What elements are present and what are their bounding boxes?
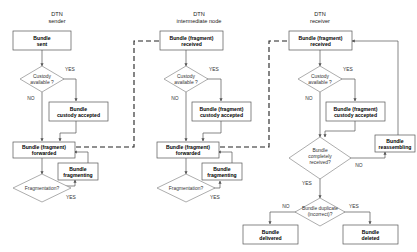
- node-recv-accepted-line2: custody accepted: [334, 112, 377, 118]
- node-inter-custody-accepted: Bundle (fragment) custody accepted: [192, 102, 251, 121]
- node-recv-dup-q-line2: (incorrect)?: [308, 212, 333, 217]
- node-sender-accepted-line1: Bundle: [70, 106, 87, 112]
- node-sender-custody-question: Custody available ? YES NO: [20, 66, 76, 101]
- edge-sender-fragmenting-to-forwarded: [74, 152, 88, 164]
- node-recv-received-line1: Bundle (fragment): [299, 35, 343, 41]
- node-recv-custody-q-line1: Custody: [311, 74, 329, 79]
- node-recv-complete-q-line3: received?: [309, 160, 330, 165]
- edge-label-recv-dup-no: NO: [282, 204, 290, 209]
- node-sender-forwarded: Bundle (fragment) forwarded: [13, 142, 75, 158]
- edge-recv-dup-no: [270, 212, 297, 224]
- edge-sender-custody-yes: [62, 79, 76, 101]
- node-recv-accepted-line1: Bundle (fragment): [334, 106, 378, 112]
- node-recv-deleted: Bundle deleted: [343, 225, 398, 244]
- node-recv-delivered-line1: Bundle: [262, 229, 279, 235]
- edge-recv-reassembling-to-received: [352, 41, 398, 136]
- edge-recv-custody-yes: [340, 79, 355, 101]
- node-recv-deleted-line1: Bundle: [362, 229, 379, 235]
- node-recv-reassembling: Bundle reassembling: [375, 135, 415, 152]
- lane-title-intermediate: DTN intermediate node: [177, 11, 222, 24]
- edge-recv-accepted-to-complete: [325, 121, 355, 137]
- edge-label-recv-custody-no: NO: [305, 96, 313, 101]
- edge-inter-fragmenting-to-forwarded: [218, 152, 232, 164]
- node-recv-custody-accepted: Bundle (fragment) custody accepted: [326, 102, 385, 121]
- node-inter-fragmenting: Bundle fragmenting: [202, 163, 242, 180]
- edge-recv-dup-yes: [343, 212, 370, 224]
- lane-title-sender-line2: sender: [48, 18, 65, 24]
- node-inter-fragmenting-line2: fragmenting: [207, 172, 236, 178]
- node-inter-custody-q-line1: Custody: [177, 74, 195, 79]
- node-sender-fragmenting-line2: fragmenting: [63, 172, 92, 178]
- edge-inter-accepted-to-forwarded: [203, 121, 221, 141]
- node-sender-frag-q-line1: Fragmentation?: [25, 186, 60, 191]
- node-sender-start: Bundle sent: [13, 31, 71, 50]
- node-inter-forwarded: Bundle (fragment) forwarded: [157, 142, 219, 158]
- node-recv-dup-q-line1: Bundle duplicate: [302, 206, 338, 211]
- node-inter-custody-question: Custody available ? YES NO: [164, 66, 220, 101]
- node-recv-custody-q-line2: available ?: [308, 80, 332, 85]
- edge-label-sender-custody-no: NO: [27, 96, 35, 101]
- node-inter-received: Bundle (fragment) received: [160, 31, 223, 50]
- node-recv-reassembling-line2: reassembling: [379, 144, 412, 150]
- node-sender-custody-q-line2: available ?: [30, 80, 54, 85]
- dtn-bundle-flowchart: DTN sender DTN intermediate node DTN rec…: [0, 0, 417, 252]
- dashed-link-intermediate-to-receiver: [220, 41, 294, 147]
- lane-title-intermediate-line2: intermediate node: [177, 18, 222, 24]
- node-inter-accepted-line2: custody accepted: [200, 112, 243, 118]
- node-recv-delivered-line2: delivered: [259, 235, 281, 241]
- node-inter-custody-q-line2: available ?: [174, 80, 198, 85]
- edge-dashed-sender-forwarded-to-inter-received: [76, 41, 167, 147]
- node-inter-received-line1: Bundle (fragment): [170, 35, 214, 41]
- lane-title-intermediate-line1: DTN: [193, 11, 205, 17]
- edge-sender-accepted-to-forwarded: [60, 121, 76, 141]
- node-recv-received-line2: received: [310, 41, 331, 47]
- node-inter-forwarded-line2: forwarded: [176, 150, 201, 156]
- node-sender-forwarded-line2: forwarded: [32, 150, 57, 156]
- lane-title-receiver-line2: receiver: [310, 18, 330, 24]
- node-sender-custody-accepted: Bundle custody accepted: [49, 102, 108, 121]
- node-sender-custody-q-line1: Custody: [33, 74, 51, 79]
- edge-label-inter-frag-yes: YES: [210, 195, 221, 200]
- edge-label-recv-dup-yes: YES: [349, 204, 360, 209]
- node-sender-start-line2: sent: [37, 41, 48, 47]
- edge-label-inter-custody-yes: YES: [209, 67, 220, 72]
- node-recv-complete-q-line2: completely: [308, 154, 332, 159]
- edge-inter-custody-yes: [206, 79, 221, 101]
- edge-label-sender-custody-yes: YES: [65, 67, 76, 72]
- edge-recv-complete-no: [349, 152, 385, 158]
- node-inter-accepted-line1: Bundle (fragment): [200, 106, 244, 112]
- node-recv-custody-question: Custody available ? YES NO: [298, 66, 354, 101]
- dashed-link-sender-to-intermediate: [76, 41, 167, 147]
- node-inter-received-line2: received: [181, 41, 202, 47]
- lane-title-sender: DTN sender: [48, 11, 65, 24]
- node-recv-delivered: Bundle delivered: [243, 225, 298, 244]
- node-recv-complete-question: Bundle completely received? NO YES: [289, 137, 363, 186]
- edge-dashed-inter-forwarded-to-recv-received: [220, 41, 294, 147]
- lane-title-sender-line1: DTN: [51, 11, 63, 17]
- edge-label-recv-complete-no: NO: [355, 163, 363, 168]
- edge-label-inter-custody-no: NO: [171, 96, 179, 101]
- node-recv-received: Bundle (fragment) received: [289, 31, 352, 50]
- lane-title-receiver-line1: DTN: [314, 11, 326, 17]
- edge-label-sender-frag-yes: YES: [66, 195, 77, 200]
- node-sender-start-line1: Bundle: [33, 35, 50, 41]
- node-recv-deleted-line2: deleted: [362, 235, 380, 241]
- lane-title-receiver: DTN receiver: [310, 11, 330, 24]
- node-inter-frag-q-line1: Fragmentation?: [169, 186, 204, 191]
- node-sender-fragmenting: Bundle fragmenting: [58, 163, 98, 180]
- edge-label-recv-custody-yes: YES: [343, 67, 354, 72]
- node-sender-accepted-line2: custody accepted: [57, 112, 100, 118]
- edge-label-recv-complete-yes: YES: [302, 181, 313, 186]
- node-recv-complete-q-line1: Bundle: [312, 148, 328, 153]
- receiver-edges: [270, 41, 398, 224]
